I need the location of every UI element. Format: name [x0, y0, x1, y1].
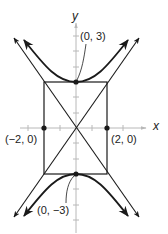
y-axis-label: y — [72, 10, 78, 22]
label-vertex-bottom: (0, −3) — [37, 205, 69, 216]
label-vertex-top: (0, 3) — [80, 31, 106, 42]
label-covertex-left: (−2, 0) — [5, 134, 37, 145]
label-covertex-right: (2, 0) — [111, 134, 137, 145]
pointer-top-vertex — [77, 44, 86, 80]
x-axis-label: x — [153, 120, 159, 132]
pointer-bottom-vertex — [66, 176, 74, 203]
point-vertex-bottom — [73, 171, 78, 176]
point-vertex-top — [73, 79, 78, 84]
point-covertex-left — [41, 125, 46, 130]
point-covertex-right — [104, 125, 109, 130]
